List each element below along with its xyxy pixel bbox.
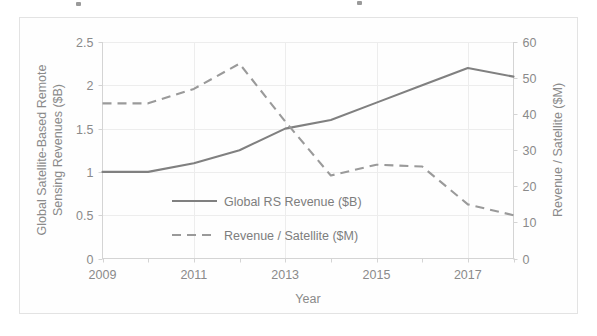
right-axis-tick-label: 50: [523, 72, 537, 86]
left-axis-ticks: [99, 43, 103, 260]
scan-artifacts: [76, 1, 362, 6]
left-axis-tick-label: 0: [87, 253, 94, 267]
x-axis-title: Year: [295, 292, 320, 306]
left-axis-title-line2: Sensing Revenues ($B): [51, 84, 65, 216]
legend-label-revenue-per-satellite: Revenue / Satellite ($M): [224, 229, 358, 243]
right-axis-tick-labels: 0102030405060: [523, 36, 537, 267]
right-axis-tick-label: 0: [523, 253, 530, 267]
right-axis-tick-label: 40: [523, 108, 537, 122]
line-chart: 00.511.522.5 0102030405060 2009201120132…: [0, 0, 597, 336]
left-axis-title-line1: Global Satellite-Based Remote: [35, 64, 49, 235]
left-axis-tick-labels: 00.511.522.5: [76, 36, 93, 267]
right-axis-ticks: [514, 43, 518, 260]
left-axis-tick-label: 2.5: [76, 36, 93, 50]
right-axis-title: Revenue / Satellite ($M): [551, 83, 565, 217]
series-line-global-rs-revenue: [103, 68, 514, 172]
x-axis-tick-label: 2015: [363, 268, 391, 282]
right-axis-tick-label: 30: [523, 144, 537, 158]
right-axis-tick-label: 60: [523, 36, 537, 50]
vertical-gridlines: [195, 42, 469, 259]
x-axis-tick-label: 2009: [89, 268, 117, 282]
x-axis-tick-labels: 20092011201320152017: [89, 268, 482, 282]
left-axis-tick-label: 1.5: [76, 123, 93, 137]
left-axis-tick-label: 2: [87, 79, 94, 93]
x-axis-ticks: [104, 259, 515, 263]
chart-legend: Global RS Revenue ($B) Revenue / Satelli…: [172, 195, 362, 243]
left-axis-tick-label: 0.5: [76, 209, 93, 223]
chart-figure: 00.511.522.5 0102030405060 2009201120132…: [0, 0, 597, 336]
x-axis-tick-label: 2017: [454, 268, 482, 282]
left-axis-title: Global Satellite-Based Remote Sensing Re…: [35, 64, 65, 235]
right-axis-tick-label: 20: [523, 180, 537, 194]
legend-label-global-rs-revenue: Global RS Revenue ($B): [224, 195, 362, 209]
x-axis-tick-label: 2011: [180, 268, 207, 282]
left-axis-tick-label: 1: [87, 166, 94, 180]
series-line-revenue-per-satellite: [103, 64, 514, 216]
x-axis-tick-label: 2013: [271, 268, 299, 282]
right-axis-tick-label: 10: [523, 216, 537, 230]
gridlines: [103, 43, 514, 216]
